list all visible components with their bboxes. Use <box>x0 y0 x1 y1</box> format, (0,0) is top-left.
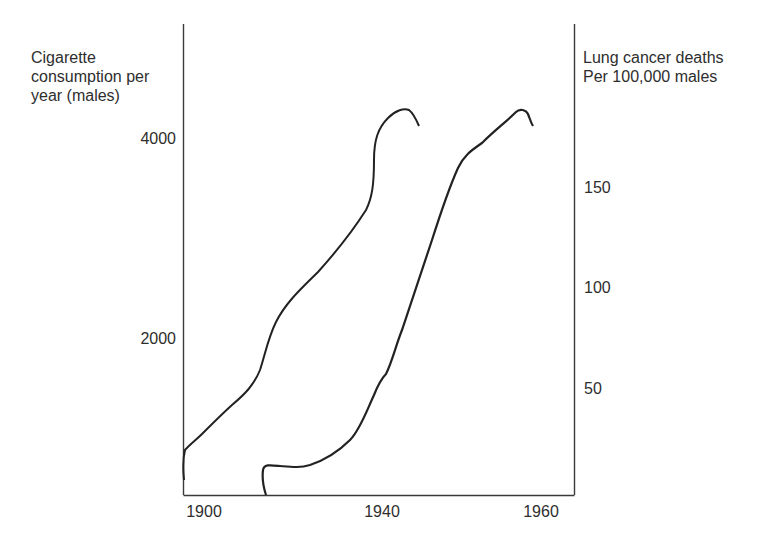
cigarette-consumption-curve <box>183 109 419 480</box>
lung-cancer-deaths-curve <box>263 110 533 495</box>
chart-plot <box>0 0 776 548</box>
axes <box>184 24 575 496</box>
